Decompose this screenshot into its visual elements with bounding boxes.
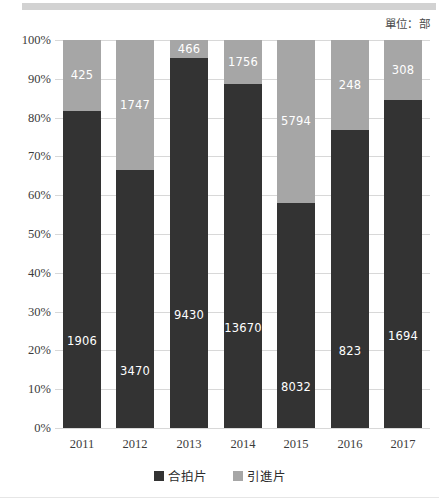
gridline xyxy=(55,428,430,429)
x-axis-tick-label: 2014 xyxy=(224,437,262,452)
bar-segment-imported[interactable]: 308 xyxy=(384,40,422,100)
bar-segment-imported[interactable]: 248 xyxy=(331,40,369,130)
x-axis-tick-label: 2017 xyxy=(384,437,422,452)
bar-column[interactable]: 3081694 xyxy=(384,40,422,428)
bar-value-label: 13670 xyxy=(224,321,262,335)
chart-legend: 合拍片引進片 xyxy=(0,466,439,485)
bar-column[interactable]: 17473470 xyxy=(116,40,154,428)
x-axis-tick-label: 2012 xyxy=(116,437,154,452)
bar-column[interactable]: 175613670 xyxy=(224,40,262,428)
x-axis-tick-label: 2015 xyxy=(277,437,315,452)
bar-value-label: 466 xyxy=(178,42,201,56)
x-axis: 2011201220132014201520162017 xyxy=(55,437,430,457)
bar-segment-imported[interactable]: 1756 xyxy=(224,40,262,84)
y-axis-tick-label: 10% xyxy=(5,382,51,397)
bar-segment-imported[interactable]: 466 xyxy=(170,40,208,58)
bar-value-label: 8032 xyxy=(281,380,311,394)
bar-value-label: 3470 xyxy=(120,364,150,378)
y-axis-tick-label: 30% xyxy=(5,304,51,319)
bar-value-label: 425 xyxy=(71,68,94,82)
bar-value-label: 1756 xyxy=(228,55,258,69)
bar-segment-co-production[interactable]: 13670 xyxy=(224,84,262,428)
y-axis-tick-label: 70% xyxy=(5,149,51,164)
bar-series-container: 4251906174734704669430175613670579480322… xyxy=(55,40,430,428)
y-axis-tick-label: 90% xyxy=(5,71,51,86)
bar-column[interactable]: 248823 xyxy=(331,40,369,428)
legend-swatch-icon xyxy=(233,471,243,481)
bar-column[interactable]: 4669430 xyxy=(170,40,208,428)
y-axis-tick-label: 100% xyxy=(5,33,51,48)
x-axis-tick-label: 2011 xyxy=(63,437,101,452)
y-axis-tick-label: 50% xyxy=(5,227,51,242)
bar-segment-imported[interactable]: 1747 xyxy=(116,40,154,170)
bar-segment-imported[interactable]: 425 xyxy=(63,40,101,111)
bar-column[interactable]: 57948032 xyxy=(277,40,315,428)
y-axis-tick-label: 20% xyxy=(5,343,51,358)
x-axis-tick-label: 2013 xyxy=(170,437,208,452)
bar-column[interactable]: 4251906 xyxy=(63,40,101,428)
x-axis-tick-label: 2016 xyxy=(331,437,369,452)
bar-value-label: 1747 xyxy=(120,98,150,112)
bar-value-label: 9430 xyxy=(174,308,204,322)
y-axis-tick-label: 60% xyxy=(5,188,51,203)
legend-label: 合拍片 xyxy=(168,466,207,485)
legend-item[interactable]: 合拍片 xyxy=(154,466,207,485)
bar-value-label: 1906 xyxy=(67,334,97,348)
bar-value-label: 823 xyxy=(339,344,362,358)
legend-label: 引進片 xyxy=(247,466,286,485)
legend-swatch-icon xyxy=(154,471,164,481)
bar-segment-co-production[interactable]: 823 xyxy=(331,130,369,428)
bar-value-label: 1694 xyxy=(388,329,418,343)
y-axis: 100%90%80%70%60%50%40%30%20%10%0% xyxy=(0,40,51,428)
bar-segment-co-production[interactable]: 3470 xyxy=(116,170,154,428)
y-axis-tick-label: 0% xyxy=(5,421,51,436)
bar-value-label: 308 xyxy=(392,63,415,77)
bar-segment-co-production[interactable]: 1906 xyxy=(63,111,101,428)
y-axis-tick-label: 40% xyxy=(5,265,51,280)
bar-segment-co-production[interactable]: 8032 xyxy=(277,203,315,428)
bar-value-label: 5794 xyxy=(281,114,311,128)
legend-item[interactable]: 引進片 xyxy=(233,466,286,485)
chart-plot-area: 100%90%80%70%60%50%40%30%20%10%0% 425190… xyxy=(0,0,439,498)
bar-value-label: 248 xyxy=(339,78,362,92)
bar-segment-co-production[interactable]: 9430 xyxy=(170,58,208,428)
y-axis-tick-label: 80% xyxy=(5,110,51,125)
bar-segment-co-production[interactable]: 1694 xyxy=(384,100,422,428)
bar-segment-imported[interactable]: 5794 xyxy=(277,40,315,203)
